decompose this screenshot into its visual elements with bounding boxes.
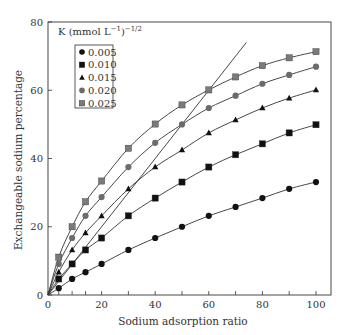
data-point-0.020 <box>69 235 75 241</box>
x-tick-label: 100 <box>306 299 325 310</box>
data-point-0.005 <box>56 285 62 291</box>
legend-marker-0.020 <box>79 88 85 94</box>
y-tick-label: 40 <box>30 153 43 164</box>
x-tick-label: 80 <box>256 299 269 310</box>
data-point-0.010 <box>82 247 88 253</box>
data-point-0.025 <box>286 55 292 61</box>
data-point-0.025 <box>232 74 238 80</box>
data-point-0.005 <box>179 224 185 230</box>
data-point-0.010 <box>152 195 158 201</box>
data-point-0.010 <box>313 122 319 128</box>
data-point-0.020 <box>179 121 185 127</box>
series-line-0.015 <box>48 90 316 295</box>
data-point-0.025 <box>206 87 212 93</box>
legend-label: 0.015 <box>88 72 117 83</box>
data-point-0.010 <box>232 152 238 158</box>
legend-marker-0.015 <box>79 75 85 80</box>
data-point-0.020 <box>259 81 265 87</box>
data-point-0.010 <box>69 261 75 267</box>
legend-label: 0.025 <box>88 98 117 109</box>
data-point-0.025 <box>125 145 131 151</box>
data-point-0.025 <box>56 254 62 260</box>
data-point-0.010 <box>179 179 185 185</box>
data-point-0.010 <box>206 164 212 170</box>
data-point-0.005 <box>98 261 104 267</box>
x-axis-label: Sodium adsorption ratio <box>118 315 247 327</box>
legend-title: K (mmol L−1)−1/2 <box>58 25 142 37</box>
data-point-0.015 <box>152 164 158 170</box>
data-point-0.010 <box>286 130 292 136</box>
y-tick-label: 80 <box>30 17 43 28</box>
data-point-0.020 <box>286 72 292 78</box>
data-point-0.010 <box>56 276 62 282</box>
data-point-0.025 <box>152 121 158 127</box>
data-point-0.020 <box>232 93 238 99</box>
data-point-0.005 <box>313 179 319 185</box>
data-point-0.015 <box>206 129 212 135</box>
data-point-0.020 <box>313 64 319 70</box>
x-tick-label: 40 <box>149 299 162 310</box>
data-point-0.020 <box>56 261 62 267</box>
data-point-0.020 <box>125 164 131 170</box>
data-point-0.010 <box>125 213 131 219</box>
y-tick-label: 20 <box>30 221 43 232</box>
legend-marker-0.010 <box>79 62 85 68</box>
legend: K (mmol L−1)−1/2 0.0050.0100.0150.0200.0… <box>58 25 142 109</box>
legend-label: 0.010 <box>88 59 117 70</box>
x-tick-label: 0 <box>45 299 51 310</box>
legend-marker-0.005 <box>79 49 85 55</box>
data-point-0.020 <box>206 105 212 111</box>
data-point-0.025 <box>259 63 265 69</box>
chart: 020406080100020406080 Sodium adsorption … <box>0 0 346 335</box>
data-point-0.005 <box>152 235 158 241</box>
data-point-0.005 <box>232 204 238 210</box>
data-point-0.025 <box>98 178 104 184</box>
data-point-0.015 <box>313 86 319 92</box>
data-point-0.025 <box>82 199 88 205</box>
legend-label: 0.020 <box>88 85 117 96</box>
y-tick-label: 0 <box>37 290 43 301</box>
x-tick-label: 60 <box>202 299 215 310</box>
y-tick-label: 60 <box>30 85 43 96</box>
data-point-0.005 <box>259 195 265 201</box>
data-point-0.020 <box>82 213 88 219</box>
legend-marker-0.025 <box>79 100 85 106</box>
x-tick-label: 20 <box>95 299 108 310</box>
legend-label: 0.005 <box>88 47 117 58</box>
data-point-0.005 <box>206 213 212 219</box>
data-point-0.005 <box>286 186 292 192</box>
data-point-0.005 <box>125 247 131 253</box>
y-axis-label: Exchangeable sodium percentage <box>12 70 24 250</box>
data-point-0.015 <box>179 147 185 153</box>
data-point-0.020 <box>152 140 158 146</box>
data-point-0.010 <box>259 141 265 147</box>
data-point-0.005 <box>82 269 88 275</box>
data-point-0.025 <box>69 224 75 230</box>
data-point-0.005 <box>69 276 75 282</box>
data-point-0.010 <box>98 235 104 241</box>
data-point-0.020 <box>98 194 104 200</box>
data-point-0.025 <box>313 49 319 55</box>
data-point-0.025 <box>179 102 185 108</box>
